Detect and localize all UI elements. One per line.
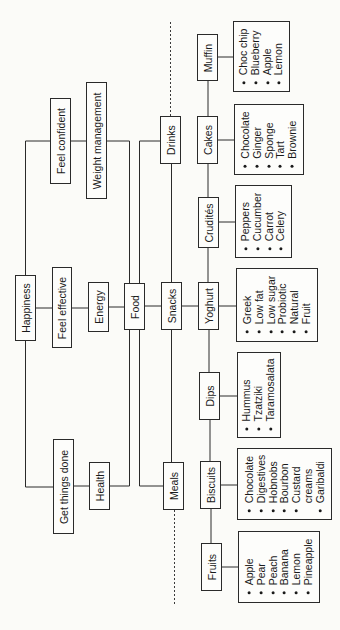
bullet-list: Apple Pear Peach Banana Lemon Pineapple <box>244 539 315 596</box>
node-weight-management: Weight management <box>86 82 107 199</box>
bullet-list: Peppers Cucumber Carrot Celery <box>240 192 287 250</box>
list-item: Lemon <box>273 28 285 85</box>
node-label: Energy <box>93 290 104 323</box>
node-label: Get things done <box>58 449 69 523</box>
node-snacks: Snacks <box>161 282 182 330</box>
node-feel-effective: Feel effective <box>52 267 72 348</box>
node-label: Dips <box>204 385 215 406</box>
list-item: Blueberry <box>250 28 262 85</box>
list-item: Apple <box>262 28 274 85</box>
list-item: Low fat <box>253 276 265 334</box>
list-item: Digestives <box>255 455 267 513</box>
bullet-list: Greek Low fat Low sugar Probiotic Natura… <box>242 276 313 334</box>
list-item: Hobnobs <box>267 455 279 513</box>
node-label: Food <box>129 295 140 319</box>
list-item: Fruit <box>301 276 313 334</box>
list-cakes: Chocolate Ginger Sponge Tart Brownie <box>234 104 304 175</box>
list-crudites: Peppers Cucumber Carrot Celery <box>235 185 292 258</box>
node-label: Yoghurt <box>203 288 214 324</box>
node-dips: Dips <box>199 372 220 420</box>
list-item: Pear <box>255 539 267 596</box>
list-dips: Hummus Tzatziki Taramosalata <box>237 352 281 438</box>
list-fruits: Apple Pear Peach Banana Lemon Pineapple <box>238 531 320 603</box>
node-label: Biscuits <box>205 467 216 503</box>
node-cakes: Cakes <box>197 116 218 164</box>
node-label: Snacks <box>166 289 177 323</box>
node-label: Weight management <box>91 92 102 189</box>
list-item: Bourbon <box>279 455 291 513</box>
node-label: Happiness <box>20 283 31 333</box>
node-label: Muffin <box>202 43 213 71</box>
node-energy: Energy <box>88 282 109 332</box>
bullet-list: Chocolate Ginger Sponge Tart Brownie <box>240 111 299 168</box>
node-label: Feel effective <box>57 276 68 338</box>
list-item: Tzatziki <box>253 358 265 431</box>
node-muffin: Muffin <box>197 34 218 81</box>
list-item: Brownie <box>287 111 299 168</box>
node-drinks: Drinks <box>160 116 181 164</box>
node-fruits: Fruits <box>201 543 222 591</box>
list-item: Taramosalata <box>265 358 277 431</box>
list-item: Ginger <box>251 111 263 168</box>
list-item: Chocolate <box>243 455 255 513</box>
list-item: Peppers <box>240 192 252 250</box>
list-biscuits: Chocolate Digestives Hobnobs Bourbon Cus… <box>237 448 332 520</box>
node-crudites: Crudités <box>198 197 219 248</box>
node-health: Health <box>89 462 110 510</box>
node-label: Cakes <box>202 125 213 155</box>
node-label: Drinks <box>165 125 176 155</box>
list-item: Garibaldi <box>314 455 326 513</box>
list-item: Carrot <box>264 192 276 250</box>
list-item: Custard <box>290 455 302 513</box>
list-item: Celery <box>275 192 287 250</box>
list-item-continuation: creams <box>302 455 314 513</box>
node-yoghurt: Yoghurt <box>198 282 219 330</box>
bullet-list: Hummus Tzatziki Taramosalata <box>241 358 276 431</box>
node-food: Food <box>124 283 145 330</box>
hierarchy-diagram: Happiness Feel confident Feel effective … <box>0 0 340 630</box>
node-happiness: Happiness <box>15 275 36 341</box>
list-item: Choc chip <box>238 28 250 85</box>
node-biscuits: Biscuits <box>200 461 221 509</box>
node-feel-confident: Feel confident <box>50 98 71 184</box>
bullet-list: Choc chip Blueberry Apple Lemon <box>238 28 285 85</box>
list-item: Pineapple <box>303 539 315 596</box>
bullet-list: Chocolate Digestives Hobnobs Bourbon Cus… <box>243 455 326 513</box>
node-label: Feel confident <box>55 108 66 174</box>
node-label: Fruits <box>206 554 217 580</box>
list-item: Sponge <box>263 111 275 168</box>
list-muffin: Choc chip Blueberry Apple Lemon <box>233 21 290 92</box>
node-meals: Meals <box>163 462 184 510</box>
list-yoghurt: Greek Low fat Low sugar Probiotic Natura… <box>236 268 318 342</box>
list-item: Cucumber <box>252 192 264 250</box>
node-label: Meals <box>168 472 179 500</box>
node-get-things-done: Get things done <box>53 439 74 534</box>
node-label: Crudités <box>203 203 214 242</box>
node-label: Health <box>94 471 105 501</box>
